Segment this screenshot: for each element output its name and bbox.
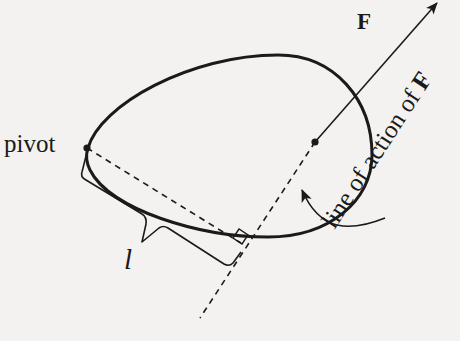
lever-arm-label: l: [124, 243, 132, 276]
force-application-point: [311, 138, 318, 145]
line-of-action: [200, 142, 315, 318]
pivot-label: pivot: [4, 130, 55, 158]
lever-arm-brace: [82, 152, 242, 265]
diagram-canvas: [0, 0, 460, 341]
pivot-point: [83, 144, 90, 151]
force-label: F: [357, 9, 371, 35]
